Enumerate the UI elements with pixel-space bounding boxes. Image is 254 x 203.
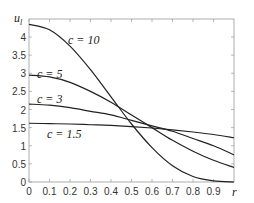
svg-text:4: 4 — [20, 32, 26, 43]
svg-text:0: 0 — [20, 177, 26, 188]
x-axis-label: r — [232, 185, 237, 199]
svg-text:0.4: 0.4 — [104, 186, 118, 197]
svg-text:2: 2 — [20, 105, 26, 116]
svg-text:0.8: 0.8 — [186, 186, 200, 197]
series-label-c5: c = 5 — [37, 67, 62, 81]
svg-text:0.6: 0.6 — [145, 186, 159, 197]
series-line — [29, 75, 234, 167]
svg-text:3: 3 — [20, 68, 26, 79]
axes: 00.10.20.30.40.50.60.70.80.900.511.522.5… — [12, 19, 234, 197]
svg-text:2.5: 2.5 — [12, 86, 26, 97]
svg-text:1.5: 1.5 — [12, 123, 26, 134]
svg-text:1: 1 — [20, 141, 26, 152]
chart: 00.10.20.30.40.50.60.70.80.900.511.522.5… — [0, 0, 254, 203]
svg-text:0.5: 0.5 — [125, 186, 139, 197]
series-label-c15: c = 1.5 — [47, 127, 81, 141]
series-label-c3: c = 3 — [37, 92, 62, 106]
svg-text:0.3: 0.3 — [84, 186, 98, 197]
svg-text:0.7: 0.7 — [166, 186, 180, 197]
y-axis-label: ul — [14, 11, 23, 27]
series-label-c10: c = 10 — [68, 33, 99, 47]
svg-text:0: 0 — [26, 186, 32, 197]
svg-text:0.2: 0.2 — [63, 186, 77, 197]
svg-text:0.5: 0.5 — [12, 159, 26, 170]
svg-text:0.1: 0.1 — [43, 186, 57, 197]
svg-text:0.9: 0.9 — [207, 186, 221, 197]
svg-text:3.5: 3.5 — [12, 50, 26, 61]
